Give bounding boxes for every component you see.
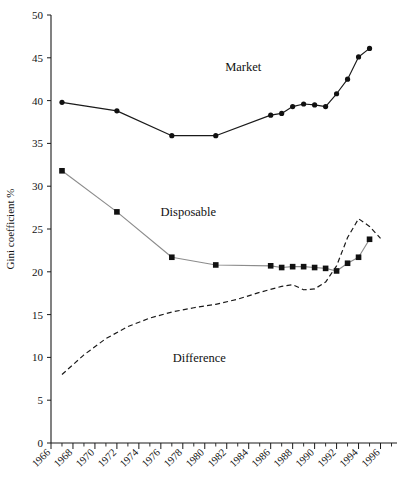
x-tick-label: 1986 (249, 447, 272, 470)
data-point-disposable (323, 266, 329, 272)
data-point-market (59, 100, 64, 105)
data-point-disposable (114, 209, 120, 215)
chart-canvas: 05101520253035404550 1966196819701972197… (0, 0, 404, 487)
x-tick-label: 1966 (30, 447, 53, 470)
data-point-disposable (312, 265, 318, 271)
data-point-market (169, 133, 174, 138)
y-tick-label: 50 (32, 9, 44, 21)
x-tick-label: 1994 (337, 446, 360, 469)
x-tick-label: 1980 (184, 447, 207, 470)
data-point-market (356, 54, 361, 59)
series-line-disposable (62, 171, 370, 271)
data-point-disposable (279, 265, 285, 271)
y-tick-label: 0 (38, 437, 44, 449)
y-tick-label: 35 (32, 137, 44, 149)
y-tick-label: 5 (38, 394, 44, 406)
y-axis-title: Gini coefficient % (4, 188, 16, 269)
x-axis-ticks: 1966196819701972197419761978198019821984… (30, 443, 392, 469)
data-point-market (367, 46, 372, 51)
y-tick-label: 45 (32, 52, 44, 64)
y-tick-label: 30 (32, 180, 44, 192)
x-tick-label: 1982 (206, 447, 229, 470)
data-point-market (268, 113, 273, 118)
x-tick-label: 1984 (228, 446, 251, 469)
x-tick-label: 1990 (293, 447, 316, 470)
y-tick-label: 40 (32, 95, 44, 107)
series-label-market: Market (225, 60, 262, 74)
series-label-disposable: Disposable (161, 205, 217, 219)
data-point-disposable (268, 263, 274, 269)
data-point-market (334, 91, 339, 96)
data-point-market (290, 104, 295, 109)
x-tick-label: 1970 (74, 447, 97, 470)
data-point-disposable (367, 236, 373, 242)
y-tick-label: 15 (32, 309, 44, 321)
y-axis-ticks: 05101520253035404550 (32, 9, 51, 449)
y-tick-label: 20 (32, 266, 44, 278)
x-tick-label: 1972 (96, 447, 119, 470)
x-tick-label: 1996 (359, 447, 382, 470)
data-point-market (323, 104, 328, 109)
data-point-market (345, 77, 350, 82)
data-point-disposable (290, 264, 296, 270)
x-tick-label: 1968 (52, 447, 75, 470)
gini-coefficient-chart: 05101520253035404550 1966196819701972197… (0, 0, 404, 487)
data-point-disposable (213, 262, 219, 268)
x-tick-label: 1992 (315, 447, 338, 470)
series-label-difference: Difference (173, 351, 227, 365)
data-series-group (59, 46, 380, 375)
x-tick-label: 1976 (140, 447, 163, 470)
data-point-market (213, 133, 218, 138)
series-annotations: MarketDisposableDifference (161, 60, 262, 365)
data-point-market (312, 102, 317, 107)
y-tick-label: 10 (32, 351, 44, 363)
data-point-disposable (301, 264, 307, 270)
data-point-disposable (356, 254, 362, 260)
data-point-disposable (169, 254, 175, 260)
data-point-market (279, 111, 284, 116)
x-tick-label: 1978 (162, 447, 185, 470)
x-tick-label: 1974 (118, 446, 141, 469)
data-point-disposable (59, 168, 65, 174)
x-tick-label: 1988 (271, 447, 294, 470)
data-point-market (301, 101, 306, 106)
series-line-market (62, 48, 370, 135)
data-point-disposable (345, 260, 351, 266)
y-tick-label: 25 (32, 223, 44, 235)
data-point-market (114, 108, 119, 113)
